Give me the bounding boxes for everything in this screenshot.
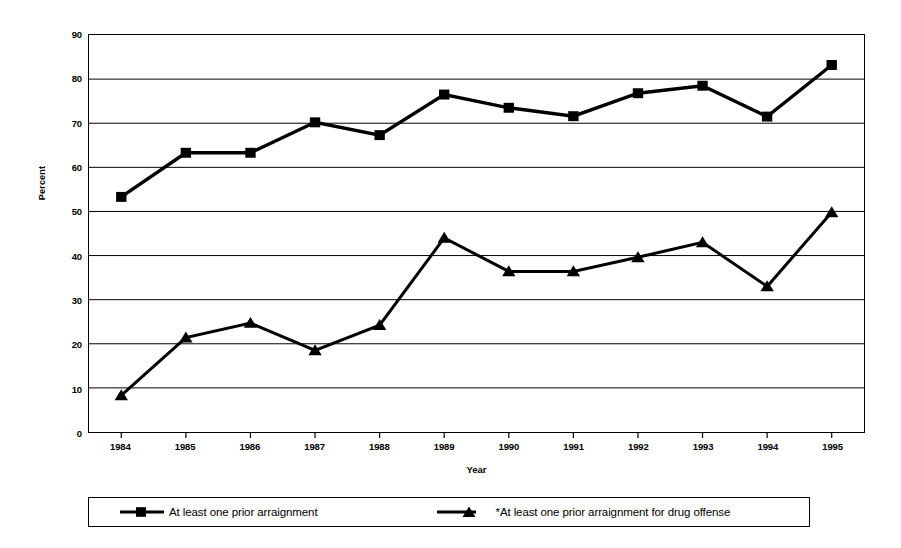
legend-label: At least one prior arraignment (169, 506, 318, 518)
data-point-square (697, 81, 707, 91)
x-axis-tick-label: 1990 (479, 441, 539, 452)
series-prior-arraignment-drug (115, 206, 839, 400)
x-axis-tick-label: 1995 (803, 441, 863, 452)
y-axis-tick-label: 90 (46, 29, 82, 40)
data-point-triangle (825, 206, 838, 217)
plot-area (88, 34, 865, 433)
series-line (121, 65, 831, 197)
x-axis-tick-label: 1987 (285, 441, 345, 452)
x-axis-tick-label: 1984 (90, 441, 150, 452)
y-axis-tick-label: 30 (46, 295, 82, 306)
data-point-square (568, 111, 578, 121)
data-point-triangle (244, 317, 257, 328)
y-axis-tick-label: 50 (46, 206, 82, 217)
x-axis-tick-label: 1994 (738, 441, 798, 452)
data-point-square (762, 112, 772, 122)
data-point-square (116, 192, 126, 202)
data-point-triangle (696, 236, 709, 247)
y-axis-tick-label: 40 (46, 250, 82, 261)
chart-figure: Percent 9080706050403020100 198419851986… (0, 0, 901, 548)
y-axis-tick-label: 0 (46, 428, 82, 439)
y-axis-tick-label: 80 (46, 73, 82, 84)
data-point-square (633, 88, 643, 98)
legend-entry-prior-arraignment-drug[interactable]: *At least one prior arraignment for drug… (436, 505, 731, 519)
x-axis-tick-label: 1989 (414, 441, 474, 452)
triangle-marker-icon (436, 505, 482, 519)
data-point-square (310, 117, 320, 127)
chart-legend: At least one prior arraignment *At least… (88, 497, 810, 527)
y-axis-tick-label: 10 (46, 383, 82, 394)
y-axis-tick-label: 20 (46, 339, 82, 350)
data-series-layer (89, 35, 864, 432)
x-axis-tick-label: 1985 (155, 441, 215, 452)
data-point-square (181, 148, 191, 158)
data-point-square (827, 60, 837, 70)
series-prior-arraignment (116, 60, 837, 202)
y-axis-tick-label: 60 (46, 162, 82, 173)
y-axis-tick-labels: 9080706050403020100 (40, 34, 82, 433)
legend-label: *At least one prior arraignment for drug… (496, 506, 731, 518)
x-axis-tick-label: 1993 (673, 441, 733, 452)
data-point-square (374, 130, 384, 140)
x-axis-title: Year (88, 464, 865, 475)
data-point-triangle (438, 232, 451, 243)
legend-entry-prior-arraignment[interactable]: At least one prior arraignment (119, 505, 318, 519)
y-axis-tick-label: 70 (46, 117, 82, 128)
x-axis-tick-label: 1991 (544, 441, 604, 452)
data-point-square (245, 148, 255, 158)
x-axis-tick-label: 1986 (220, 441, 280, 452)
data-point-square (504, 103, 514, 113)
data-point-square (439, 90, 449, 100)
series-line (121, 212, 831, 395)
x-axis-tick-labels: 1984198519861987198819891990199119921993… (88, 441, 865, 461)
square-marker-icon (119, 505, 165, 519)
x-axis-tick-label: 1992 (608, 441, 668, 452)
x-axis-tick-label: 1988 (349, 441, 409, 452)
